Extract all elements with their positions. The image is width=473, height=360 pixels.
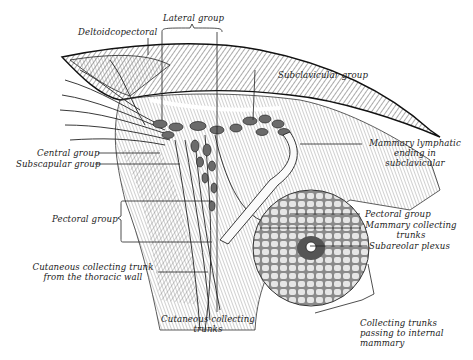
label-subclavicular-group: Subclavicular group — [278, 70, 368, 80]
label-collecting-trunks-internal-mammary: Collecting trunks passing to internal ma… — [360, 318, 444, 348]
label-lateral-group: Lateral group — [163, 13, 224, 23]
label-mammary-collecting-trunks: Mammary collecting trunks — [362, 220, 460, 240]
label-deltoidcopectoral: Deltoidcopectoral — [78, 27, 157, 37]
anatomical-illustration — [0, 0, 473, 360]
label-mammary-lymphatic: Mammary lymphatic ending in subclavicula… — [365, 138, 465, 168]
nipple — [306, 242, 316, 252]
label-pectoral-group-right: Pectoral group — [365, 209, 431, 219]
label-cutaneous-trunks: Cutaneous collecting trunks — [158, 314, 258, 334]
label-subareolar-plexus: Subareolar plexus — [369, 241, 450, 251]
label-central-group: Central group — [37, 148, 99, 158]
label-cutaneous-thoracic: Cutaneous collecting trunk from the thor… — [28, 262, 158, 282]
label-pectoral-group-left: Pectoral group — [52, 214, 118, 224]
mammary-gland — [253, 190, 369, 306]
label-subscapular-group: Subscapular group — [16, 159, 101, 169]
